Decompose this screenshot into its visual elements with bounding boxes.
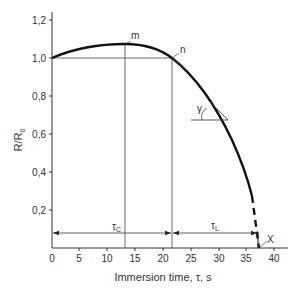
x-ticks: 0 5 10 15 20 25 30 35 40 [49, 248, 280, 264]
chart: 0,2 0,4 0,6 0,8 1,0 1,2 0 5 10 15 20 25 … [0, 0, 301, 289]
x-axis-title: Immersion time, τ, s [114, 271, 212, 283]
y-tick-label: 0,6 [32, 129, 46, 140]
y-tick-label: 0,2 [32, 205, 46, 216]
x-tick-label: 5 [76, 253, 82, 264]
svg-text:R/R0: R/R0 [12, 128, 26, 151]
y-tick-label: 0,4 [32, 167, 46, 178]
label-gamma: γ [197, 103, 202, 114]
y-axis-title: R/R0 [12, 128, 26, 151]
label-m: m [131, 30, 139, 41]
x-tick-label: 35 [240, 253, 252, 264]
x-tick-label: 0 [49, 253, 55, 264]
x-tick-label: 40 [268, 253, 280, 264]
y-tick-label: 1,0 [32, 53, 46, 64]
y-tick-label: 1,2 [32, 15, 46, 26]
x-tick-label: 10 [101, 253, 113, 264]
label-tau-c: τC [112, 221, 121, 233]
label-tau-l: τL [211, 220, 219, 232]
label-X: X [267, 234, 274, 245]
label-n: n [180, 44, 186, 55]
y-ticks: 0,2 0,4 0,6 0,8 1,0 1,2 [32, 15, 52, 216]
x-tick-label: 30 [213, 253, 225, 264]
x-tick-label: 25 [185, 253, 197, 264]
y-tick-label: 0,8 [32, 91, 46, 102]
tangent-n [172, 58, 186, 70]
x-tick-label: 15 [129, 253, 141, 264]
x-tick-label: 20 [157, 253, 169, 264]
